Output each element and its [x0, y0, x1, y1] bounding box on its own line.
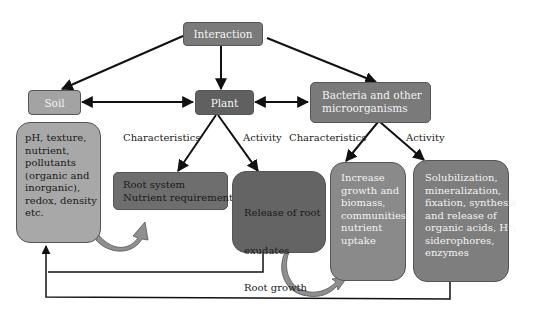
bacteria-char-line: Increase: [341, 172, 405, 185]
soil-props-line: pollutants: [25, 157, 92, 170]
plant-activity-line: Root growth: [244, 282, 325, 295]
bacteria-characteristics-label: Characteristics: [289, 132, 366, 143]
plant-activity-line: Release of root: [244, 207, 325, 220]
soil-node: Soil: [28, 90, 81, 115]
bacteria-label-line-1: Bacteria and other: [322, 89, 430, 102]
plant-characteristics-label: Characteristics: [123, 132, 200, 143]
bacteria-node: Bacteria and other microorganisms: [310, 82, 431, 123]
arrow-interaction-bacteria: [267, 38, 376, 82]
soil-props-line: inorganic),: [25, 182, 92, 195]
soil-props-line: etc.: [25, 207, 92, 220]
bacteria-char-line: biomass,: [341, 197, 405, 210]
bacteria-label-line-2: microorganisms: [322, 102, 430, 115]
bacteria-activity-label: Activity: [406, 132, 445, 143]
bacteria-char-line: uptake: [341, 235, 405, 248]
curved-arrow-soil-to-root: [96, 222, 148, 251]
bacteria-characteristics-node: Increase growth and biomass, communities…: [330, 162, 406, 281]
feedback-plant-activity-to-soil: [48, 252, 263, 272]
soil-label: Soil: [44, 97, 64, 109]
soil-props-line: redox, density: [25, 195, 92, 208]
bacteria-activity-node: Solubilization, mineralization, fixation…: [413, 160, 509, 282]
bacteria-char-line: communities,: [341, 210, 405, 223]
bacteria-char-line: nutrient: [341, 222, 405, 235]
bacteria-char-line: growth and: [341, 185, 405, 198]
bacteria-activity-line: siderophores,: [425, 235, 508, 248]
interaction-node: Interaction: [183, 22, 263, 46]
arrow-interaction-soil: [62, 36, 183, 89]
bacteria-activity-line: and release of: [425, 210, 508, 223]
plant-activity-node: Release of root exudates Root growth Nut…: [232, 171, 326, 253]
soil-props-line: pH, texture,: [25, 132, 92, 145]
arrow-plant-activity: [218, 115, 258, 171]
plant-characteristics-node: Root system Nutrient requirement: [113, 172, 228, 210]
soil-props-line: (organic and: [25, 170, 92, 183]
bacteria-activity-line: Solubilization,: [425, 172, 508, 185]
bacteria-activity-line: organic acids, H⁺,: [425, 222, 508, 235]
bacteria-activity-line: fixation, synthesis: [425, 197, 508, 210]
soil-props-line: nutrient,: [25, 145, 92, 158]
plant-activity-line: exudates: [244, 245, 325, 258]
bacteria-activity-line: mineralization,: [425, 185, 508, 198]
interaction-label: Interaction: [193, 28, 252, 40]
soil-properties-node: pH, texture, nutrient, pollutants (organ…: [16, 122, 101, 243]
plant-label: Plant: [211, 97, 239, 109]
plant-char-line: Nutrient requirement: [123, 192, 227, 205]
plant-activity-label: Activity: [243, 132, 282, 143]
bacteria-activity-line: enzymes: [425, 247, 508, 260]
arrow-plant-characteristics: [178, 115, 216, 171]
plant-node: Plant: [195, 90, 254, 115]
plant-char-line: Root system: [123, 179, 227, 192]
